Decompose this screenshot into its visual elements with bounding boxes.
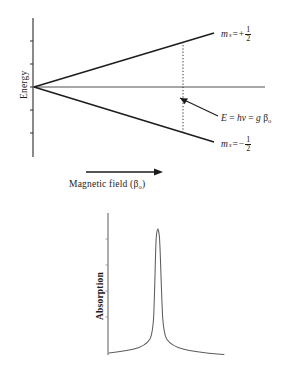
lower-branch-equals: =	[232, 140, 237, 150]
upper-branch-sign: +	[239, 30, 244, 40]
magnetic-field-paren-close: )	[142, 179, 145, 189]
equation-energy-symbol: E	[221, 113, 227, 123]
absorption-axis-title: Absorption	[96, 272, 106, 320]
lower-branch-sign: −	[239, 140, 244, 150]
lower-branch-numerator: 1	[245, 136, 251, 144]
upper-branch-fraction: 1 2	[245, 26, 251, 44]
equation-nu-symbol: ν	[242, 113, 246, 123]
transition-arrow	[180, 98, 218, 116]
lower-branch-symbol: m	[221, 140, 228, 150]
equation-g-factor-symbol: g	[256, 113, 261, 123]
energy-axis-title: Energy	[20, 71, 30, 99]
upper-branch-equals: =	[232, 30, 237, 40]
upper-branch-numerator: 1	[245, 26, 251, 34]
absorption-curve	[109, 229, 224, 355]
equation-equals-1: =	[229, 113, 234, 123]
lower-branch-denominator: 2	[245, 144, 251, 153]
lower-branch-subscript: s	[229, 142, 232, 149]
lower-branch-label: ms = − 1 2	[221, 136, 251, 154]
upper-branch-subscript: s	[229, 32, 232, 39]
upper-branch-label: ms = + 1 2	[221, 26, 251, 44]
upper-branch-symbol: m	[221, 30, 228, 40]
magnetic-field-axis-title: Magnetic field (βo)	[69, 180, 145, 191]
magnetic-field-text: Magnetic field	[69, 179, 127, 189]
scientific-figure: Energy ms = + 1 2 ms = − 1 2 E = hν = g …	[0, 0, 298, 378]
upper-branch-line	[34, 33, 214, 87]
lower-branch-fraction: 1 2	[245, 136, 251, 154]
transition-energy-equation: E = hν = g βo	[221, 114, 271, 125]
equation-beta-subscript: o	[268, 117, 271, 124]
magnetic-field-arrow	[86, 169, 163, 176]
lower-branch-line	[34, 87, 214, 142]
figure-vector-layer	[0, 0, 298, 378]
bottom-panel-group	[106, 213, 225, 355]
equation-equals-2: =	[248, 113, 253, 123]
upper-branch-denominator: 2	[245, 34, 251, 43]
